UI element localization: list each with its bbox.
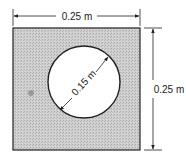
width-label: 0.25 m (62, 11, 93, 22)
dark-spot (28, 90, 34, 96)
height-label: 0.25 m (154, 84, 185, 95)
plate-diagram: 0.25 m 0.25 m 0.15 m (0, 0, 186, 158)
